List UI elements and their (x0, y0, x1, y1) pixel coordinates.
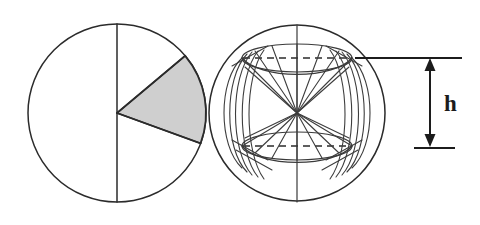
figure-root: h (0, 0, 480, 225)
right-sphere-diagram (209, 25, 385, 202)
height-dimension: h (355, 58, 462, 148)
arc-family-left (224, 50, 264, 179)
dimension-arrowhead-down (425, 134, 436, 147)
diagram-canvas: h (0, 0, 480, 225)
cone-lines-upper (242, 44, 352, 113)
cone-lines-lower (242, 113, 352, 160)
dimension-arrowhead-up (425, 58, 436, 71)
left-circle-diagram (28, 24, 206, 202)
height-label: h (444, 91, 457, 116)
arc-family-right (330, 50, 370, 179)
shaded-sector (117, 56, 206, 144)
